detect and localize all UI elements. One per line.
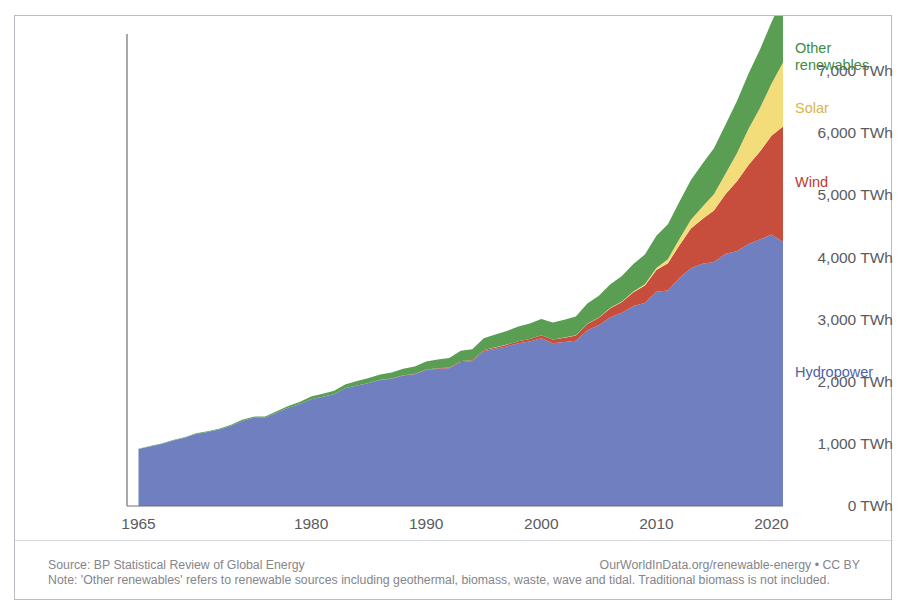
credit-text[interactable]: OurWorldInData.org/renewable-energy • CC… bbox=[600, 558, 860, 572]
stacked-area-chart[interactable] bbox=[15, 16, 893, 540]
area-series-group bbox=[139, 16, 783, 506]
chart-card: 0 TWh1,000 TWh2,000 TWh3,000 TWh4,000 TW… bbox=[14, 15, 892, 600]
area-hydropower[interactable] bbox=[139, 235, 783, 506]
y-tick-label: 0 TWh bbox=[791, 498, 893, 514]
x-tick-label: 2010 bbox=[639, 516, 673, 532]
series-label-hydropower[interactable]: Hydropower bbox=[795, 364, 873, 381]
x-tick-label: 1980 bbox=[294, 516, 328, 532]
x-tick-label: 1990 bbox=[409, 516, 443, 532]
y-tick-label: 1,000 TWh bbox=[791, 436, 893, 452]
x-tick-label: 1965 bbox=[121, 516, 155, 532]
series-label-line: renewables bbox=[795, 57, 869, 74]
series-label-line: Wind bbox=[795, 174, 828, 191]
chart-plot-area: 0 TWh1,000 TWh2,000 TWh3,000 TWh4,000 TW… bbox=[15, 16, 893, 540]
series-label-line: Hydropower bbox=[795, 364, 873, 381]
series-label-line: Solar bbox=[795, 100, 829, 117]
x-tick-label: 2020 bbox=[754, 516, 788, 532]
source-text: Source: BP Statistical Review of Global … bbox=[48, 558, 305, 572]
cropped-title-remnant bbox=[0, 0, 908, 13]
y-tick-label: 6,000 TWh bbox=[791, 125, 893, 141]
note-text: Note: 'Other renewables' refers to renew… bbox=[48, 573, 830, 587]
footer-divider bbox=[15, 540, 893, 541]
series-label-line: Other bbox=[795, 40, 869, 57]
chart-footer: Source: BP Statistical Review of Global … bbox=[15, 540, 893, 600]
x-tick-label: 2000 bbox=[524, 516, 558, 532]
series-label-wind[interactable]: Wind bbox=[795, 174, 828, 191]
y-tick-label: 4,000 TWh bbox=[791, 250, 893, 266]
series-label-other-renewables[interactable]: Otherrenewables bbox=[795, 40, 869, 74]
y-tick-label: 3,000 TWh bbox=[791, 312, 893, 328]
series-label-solar[interactable]: Solar bbox=[795, 100, 829, 117]
